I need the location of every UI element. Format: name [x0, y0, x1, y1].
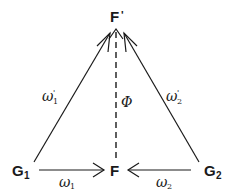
svg-text:2: 2 [216, 170, 222, 181]
svg-text:F: F [110, 8, 119, 25]
edge-g2-to-f: ω 2 [128, 163, 191, 191]
svg-text:2: 2 [167, 182, 172, 191]
svg-text:G: G [204, 162, 216, 179]
svg-text:': ' [53, 88, 55, 97]
svg-text:G: G [12, 162, 24, 179]
svg-text:F: F [110, 162, 119, 179]
svg-text:Φ: Φ [121, 94, 132, 110]
edge-f-to-fprime-phi: Φ [116, 32, 132, 160]
node-g2: G 2 [204, 162, 222, 181]
svg-text:': ' [177, 88, 179, 97]
svg-text:2: 2 [177, 97, 182, 106]
commutative-diagram: F ' G 1 F G 2 ω ' 1 ω ' 2 Φ ω [0, 0, 234, 193]
svg-text:1: 1 [53, 97, 58, 106]
svg-text:1: 1 [24, 170, 30, 181]
node-f-prime: F ' [110, 8, 124, 25]
node-g1: G 1 [12, 162, 30, 181]
svg-text:1: 1 [70, 182, 75, 191]
edge-g1-to-fprime: ω ' 1 [34, 33, 110, 162]
edge-g1-to-f: ω 1 [39, 163, 104, 191]
edge-g2-to-fprime: ω ' 2 [124, 33, 199, 162]
node-f: F [110, 162, 119, 179]
svg-text:': ' [121, 9, 124, 21]
